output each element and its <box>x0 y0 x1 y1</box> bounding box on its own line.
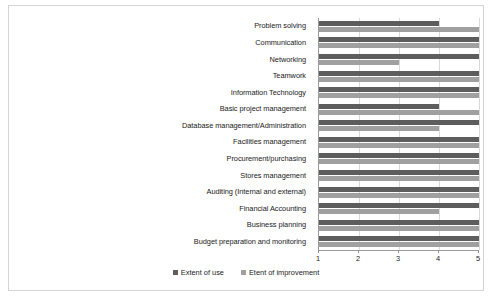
chart-frame: Problem solvingCommunicationNetworkingTe… <box>8 5 484 291</box>
bar-row <box>319 184 479 201</box>
bar-series-improve <box>319 77 479 82</box>
axis-tick-label: 2 <box>356 254 360 263</box>
legend-entry[interactable]: Extent of use <box>173 268 224 277</box>
bar-series-improve <box>319 126 439 131</box>
bar-series-use <box>319 203 479 208</box>
axis-tick-label: 4 <box>436 254 440 263</box>
legend-label: Etent of improvement <box>249 268 319 277</box>
bar-series-use <box>319 104 439 109</box>
chart-legend: Extent of useEtent of improvement <box>9 268 483 277</box>
axis-tick-mark <box>438 250 439 253</box>
bar-row <box>319 217 479 234</box>
bar-row <box>319 151 479 168</box>
bar-series-improve <box>319 93 479 98</box>
bar-row <box>319 167 479 184</box>
category-axis-labels: Problem solvingCommunicationNetworkingTe… <box>15 18 312 250</box>
category-label: Business planning <box>15 217 312 234</box>
value-axis: 12345 <box>318 250 479 266</box>
category-label: Database management/Administration <box>15 117 312 134</box>
legend-swatch-icon <box>241 270 246 275</box>
axis-tick-label: 3 <box>396 254 400 263</box>
bar-series-improve <box>319 193 479 198</box>
category-label: Information Technology <box>15 84 312 101</box>
category-label: Facilities management <box>15 134 312 151</box>
category-label: Procurement/purchasing <box>15 151 312 168</box>
bar-row <box>319 18 479 35</box>
category-label: Auditing (Internal and external) <box>15 184 312 201</box>
bar-series-improve <box>319 143 479 148</box>
chart-plot-container: Problem solvingCommunicationNetworkingTe… <box>9 6 483 290</box>
bar-series-improve <box>319 60 399 65</box>
bar-row <box>319 200 479 217</box>
bar-series-use <box>319 187 479 192</box>
axis-tick-mark <box>358 250 359 253</box>
bar-row <box>319 51 479 68</box>
category-label: Problem solving <box>15 18 312 35</box>
bar-row <box>319 35 479 52</box>
bar-series-use <box>319 236 479 241</box>
bar-series-improve <box>319 209 439 214</box>
plot-area <box>318 18 479 251</box>
bar-row <box>319 117 479 134</box>
bar-series-use <box>319 220 479 225</box>
bar-series-improve <box>319 110 479 115</box>
bar-series-use <box>319 170 479 175</box>
legend-swatch-icon <box>173 270 178 275</box>
gridline <box>479 18 480 250</box>
bar-row <box>319 68 479 85</box>
category-label: Stores management <box>15 167 312 184</box>
axis-tick-mark <box>398 250 399 253</box>
bar-series-use <box>319 37 479 42</box>
category-label: Budget preparation and monitoring <box>15 234 312 251</box>
bar-series-improve <box>319 226 479 231</box>
category-label: Teamwork <box>15 68 312 85</box>
bar-series-improve <box>319 43 479 48</box>
bar-series-use <box>319 87 479 92</box>
bar-series-use <box>319 153 479 158</box>
category-label: Communication <box>15 35 312 52</box>
category-label: Networking <box>15 51 312 68</box>
axis-tick-mark <box>318 250 319 253</box>
bar-series-use <box>319 71 479 76</box>
legend-entry[interactable]: Etent of improvement <box>241 268 319 277</box>
axis-tick-mark <box>478 250 479 253</box>
bar-row <box>319 84 479 101</box>
bar-series-use <box>319 137 479 142</box>
bar-series-improve <box>319 176 479 181</box>
bar-row <box>319 101 479 118</box>
bar-series-improve <box>319 159 479 164</box>
bar-row <box>319 134 479 151</box>
bar-row <box>319 234 479 251</box>
category-label: Basic project management <box>15 101 312 118</box>
bar-series-use <box>319 120 479 125</box>
axis-tick-label: 5 <box>476 254 480 263</box>
bar-series-improve <box>319 242 479 247</box>
bar-series-improve <box>319 27 479 32</box>
axis-tick-label: 1 <box>316 254 320 263</box>
bar-series-use <box>319 21 439 26</box>
bar-series-use <box>319 54 479 59</box>
bar-series-container <box>319 18 479 250</box>
category-label: Financial Accounting <box>15 200 312 217</box>
legend-label: Extent of use <box>181 268 224 277</box>
